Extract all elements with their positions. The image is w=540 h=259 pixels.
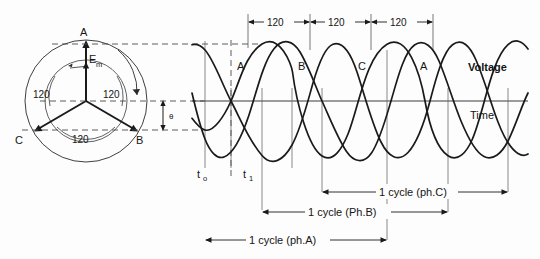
cycle-c-arrow-left-icon [322,189,329,195]
em-label-subscript: m [96,60,102,69]
cycle-a-arrow-left-icon [205,237,212,243]
cycle-a-arrow-right-icon [381,237,388,243]
cycle-label-a: 1 cycle (ph.A) [249,234,316,246]
phasor-label-b: B [136,134,143,146]
angle-label-ab: 120 [103,89,120,100]
phase-spacing-label-1: 120 [267,17,284,28]
cycle-label-c: 1 cycle (ph.C) [379,186,447,198]
three-phase-diagram-svg: A B C E m 120 120 120 θ [0,0,540,259]
phase-spacing-label-3: 120 [390,17,407,28]
waveform-peak-label-a2: A [420,60,428,72]
sine-wave-a [192,41,528,158]
diagram-canvas: A B C E m 120 120 120 θ [0,0,540,259]
dim-arrow-3-right-icon [427,19,433,24]
dim-arrow-3-left-icon [371,19,377,24]
waveform-peak-label-c: C [358,60,366,72]
cycle-label-b: 1 cycle (Ph.B) [308,206,376,218]
angle-label-bc: 120 [72,134,89,145]
time-axis-label: Time [470,109,494,121]
angle-arc-ac [49,76,55,106]
dim-arrow-2-right-icon [365,19,371,24]
time-mark-t1: t [243,168,246,180]
dim-arrow-1-left-icon [248,19,254,24]
time-mark-t0-subscript: o [203,174,207,183]
cycle-b-arrow-left-icon [262,209,269,215]
cycle-brackets-group: 1 cycle (ph.C) 1 cycle (Ph.B) 1 cycle (p… [205,184,508,247]
em-tick-left [70,67,84,69]
rotation-arrow-head-icon [133,89,141,95]
voltage-axis-label: Voltage [468,61,507,73]
time-mark-t0: t [197,168,200,180]
cycle-b-arrow-right-icon [442,209,449,215]
dim-arrow-1-right-icon [304,19,310,24]
phasor-label-c: C [15,134,23,146]
time-mark-t1-subscript: 1 [249,174,253,183]
waveform-peak-label-b: B [298,60,305,72]
phasor-label-a: A [80,26,88,38]
phasor-diagram-group: A B C E m 120 120 120 [15,26,147,162]
theta-label: θ [169,112,174,121]
waveform-peak-label-a1: A [237,60,245,72]
cycle-c-arrow-right-icon [502,189,509,195]
angle-label-ac: 120 [33,89,50,100]
dim-arrow-2-left-icon [310,19,316,24]
phase-spacing-label-2: 120 [328,17,345,28]
